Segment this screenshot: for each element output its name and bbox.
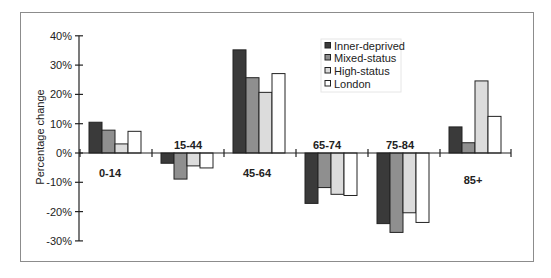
- bar-london-15-44: [200, 153, 213, 168]
- bar-high-status-85+: [475, 81, 488, 153]
- bar-london-45-64: [272, 74, 285, 153]
- bar-mixed-status-15-44: [174, 153, 187, 179]
- bar-high-status-45-64: [259, 92, 272, 153]
- bar-inner-deprived-65-74: [305, 153, 318, 203]
- category-label: 75-84: [386, 139, 415, 151]
- legend-swatch: [325, 81, 331, 87]
- category-label: 65-74: [313, 139, 342, 151]
- legend: Inner-deprivedMixed-statusHigh-statusLon…: [321, 39, 405, 92]
- bar-inner-deprived-15-44: [161, 153, 174, 163]
- y-tick-label: 30%: [50, 59, 72, 71]
- legend-label: London: [334, 78, 371, 90]
- y-tick-label: 40%: [50, 30, 72, 42]
- bar-inner-deprived-75-84: [377, 153, 390, 224]
- bar-mixed-status-75-84: [390, 153, 403, 232]
- legend-label: Inner-deprived: [334, 40, 405, 52]
- legend-swatch: [325, 68, 331, 74]
- y-axis-title: Percentage change: [34, 89, 46, 184]
- y-tick-label: -30%: [46, 235, 72, 247]
- bar-inner-deprived-45-64: [233, 50, 246, 153]
- bar-high-status-65-74: [331, 153, 344, 194]
- bar-inner-deprived-85+: [449, 127, 462, 153]
- legend-swatch: [325, 55, 331, 61]
- category-label: 15-44: [174, 139, 203, 151]
- y-axis-label: Percentage change: [34, 89, 46, 184]
- x-axis: [79, 149, 511, 157]
- bar-london-65-74: [344, 153, 357, 195]
- bar-inner-deprived-0-14: [89, 122, 102, 153]
- bar-high-status-75-84: [403, 153, 416, 213]
- y-tick-label: 20%: [50, 88, 72, 100]
- y-tick-label: -10%: [46, 176, 72, 188]
- bar-london-0-14: [128, 131, 141, 153]
- bar-high-status-15-44: [187, 153, 200, 166]
- y-axis: 40%30%20%10%0%-10%-20%-30%: [46, 30, 83, 247]
- legend-label: High-status: [334, 65, 390, 77]
- bar-chart: Percentage change 40%30%20%10%0%-10%-20%…: [0, 0, 551, 278]
- category-label: 45-64: [243, 167, 272, 179]
- bar-mixed-status-65-74: [318, 153, 331, 188]
- bar-high-status-0-14: [115, 144, 128, 153]
- bar-london-75-84: [416, 153, 429, 222]
- category-label: 85+: [464, 174, 483, 186]
- y-tick-label: -20%: [46, 206, 72, 218]
- bars: [89, 50, 501, 233]
- y-tick-label: 0%: [56, 147, 72, 159]
- bar-mixed-status-0-14: [102, 130, 115, 153]
- y-tick-label: 10%: [50, 118, 72, 130]
- legend-label: Mixed-status: [334, 52, 397, 64]
- bar-mixed-status-85+: [462, 143, 475, 153]
- legend-swatch: [325, 43, 331, 49]
- bar-mixed-status-45-64: [246, 78, 259, 153]
- category-label: 0-14: [99, 167, 122, 179]
- bar-london-85+: [488, 116, 501, 153]
